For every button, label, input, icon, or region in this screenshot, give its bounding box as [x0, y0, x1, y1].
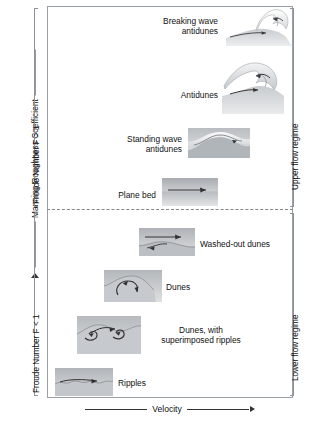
bedform-label: Dunes	[166, 282, 216, 292]
y-axis-arrowhead	[31, 273, 39, 278]
bedform-illustration	[222, 56, 284, 114]
bedform-illustration	[77, 316, 141, 354]
bedform-phase-diagram: Manning Roughness Coefficient Froude Num…	[0, 0, 315, 427]
bedform-label: Dunes, with superimposed ripples	[146, 325, 256, 345]
x-axis-line-right	[187, 409, 249, 410]
bracket-label: Upper flow regime	[291, 124, 300, 190]
bracket-label: Lower flow regime	[291, 315, 300, 381]
bracket-label: Froude Number F < 1	[32, 315, 41, 394]
bedform-illustration	[188, 128, 250, 158]
x-axis-line-left	[85, 409, 147, 410]
bedform-label: Antidunes	[148, 90, 218, 100]
bedform-illustration	[104, 270, 162, 302]
bedform-label: Ripples	[118, 378, 174, 388]
x-axis-label: Velocity	[152, 404, 182, 414]
bedform-illustration	[139, 228, 195, 256]
x-axis-velocity: Velocity	[47, 401, 293, 417]
x-axis-arrowhead	[250, 406, 255, 412]
bedform-label: Standing wave antidunes	[110, 134, 182, 154]
bedform-illustration	[226, 4, 292, 46]
bracket-label: Froude Number F > 1	[32, 126, 41, 205]
bedform-label: Washed-out dunes	[200, 239, 286, 249]
bedform-label: Breaking wave antidunes	[150, 16, 218, 36]
flow-regime-divider	[47, 209, 293, 210]
bedform-illustration	[55, 368, 113, 396]
bedform-illustration	[162, 178, 218, 206]
bedform-label: Plane bed	[90, 190, 156, 200]
